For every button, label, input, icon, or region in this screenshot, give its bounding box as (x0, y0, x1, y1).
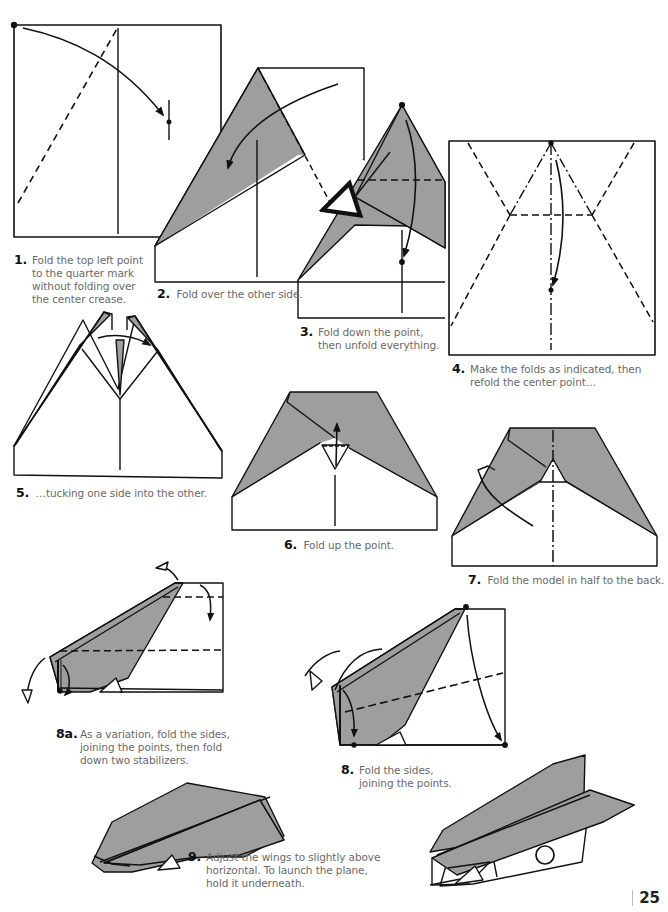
step-2-caption: 2. Fold over the other side. (157, 287, 317, 301)
step-number: 2. (157, 286, 170, 301)
step-text: Fold the model in half to the back. (488, 574, 665, 586)
step-number: 6. (284, 537, 297, 552)
step-number: 3. (300, 324, 313, 339)
step-text: Fold the top left point to the quarter m… (14, 254, 154, 306)
step-6-diagram (232, 392, 437, 530)
step-7-caption: 7. Fold the model in half to the back. (468, 573, 668, 587)
step-text: Make the folds as indicated, then refold… (452, 363, 662, 389)
step-5-caption: 5. …tucking one side into the other. (16, 486, 276, 500)
step-text: As a variation, fold the sides, joining … (56, 728, 231, 767)
step-text: Fold the sides, joining the points. (341, 764, 471, 790)
step-number: 9. (188, 849, 201, 864)
step-7-diagram (452, 428, 657, 566)
step-text: Fold over the other side. (177, 288, 303, 300)
step-4-diagram (449, 141, 655, 355)
step-8-caption: 8. Fold the sides, joining the points. (341, 763, 471, 790)
step-8-diagram (305, 605, 507, 747)
step-number: 8a. (56, 726, 78, 741)
step-number: 5. (16, 485, 29, 500)
step-9-caption: 9. Adjust the wings to slightly above ho… (188, 850, 388, 890)
step-8a-diagram (22, 562, 223, 703)
step-1-caption: 1. Fold the top left point to the quarte… (14, 253, 154, 306)
step-number: 8. (341, 762, 354, 777)
step-text: Fold down the point, then unfold everyth… (300, 326, 440, 352)
step-text: Fold up the point. (304, 539, 395, 551)
origami-diagrams (0, 0, 668, 912)
step-text: Adjust the wings to slightly above horiz… (188, 851, 388, 890)
step-number: 4. (452, 361, 465, 376)
page-number: 25 (632, 890, 660, 906)
step-number: 7. (468, 572, 481, 587)
step-3-caption: 3. Fold down the point, then unfold ever… (300, 325, 440, 352)
step-4-caption: 4. Make the folds as indicated, then ref… (452, 362, 662, 389)
step-8a-caption: 8a. As a variation, fold the sides, join… (56, 727, 231, 767)
step-5-diagram (14, 312, 222, 478)
step-6-caption: 6. Fold up the point. (284, 538, 444, 552)
step-number: 1. (14, 252, 27, 267)
step-text: …tucking one side into the other. (36, 487, 208, 499)
